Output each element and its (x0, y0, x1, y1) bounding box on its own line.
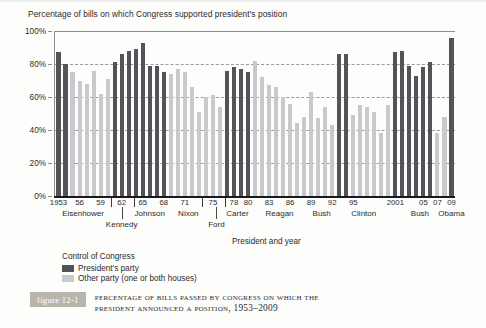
president-label-bush-1989: Bush (313, 209, 331, 218)
bar-2008 (442, 117, 446, 196)
y-tick-label-20: 20% (30, 159, 46, 168)
x-tick-label-1959: 59 (96, 198, 105, 207)
y-tick-60 (48, 97, 52, 98)
legend-swatch-other-party (62, 275, 74, 282)
x-tick-label-2009: 09 (447, 198, 456, 207)
bar-1973 (197, 112, 201, 196)
figure-number-badge: figure 12-1 (30, 292, 86, 307)
bar-1961 (113, 62, 117, 196)
bar-1998 (372, 112, 376, 196)
bar-1970 (176, 69, 180, 196)
bar-1966 (148, 66, 152, 196)
bar-1962 (120, 54, 124, 196)
tick-bracket-kennedy (111, 198, 135, 208)
bar-1974 (204, 97, 208, 196)
y-tick-label-60: 60% (30, 93, 46, 102)
bar-1988 (302, 117, 306, 196)
president-label-carter-1977: Carter (226, 209, 248, 218)
tick-bracket-ford (202, 198, 226, 208)
x-tick-label-1956: 56 (75, 198, 84, 207)
figure-page: Percentage of bills on which Congress su… (0, 0, 486, 328)
y-tick-100 (48, 31, 52, 32)
president-label-ford-1975: Ford (208, 220, 224, 229)
bar-1956 (78, 81, 82, 197)
bar-1979 (239, 69, 243, 196)
bar-1996 (358, 105, 362, 196)
bar-1967 (155, 66, 159, 196)
bar-1981 (253, 61, 257, 196)
president-label-obama-2009: Obama (438, 209, 464, 218)
bar-2006 (428, 62, 432, 196)
bar-1994 (344, 54, 348, 196)
bar-1987 (295, 123, 299, 196)
bar-1995 (351, 115, 355, 196)
president-label-kennedy-1961: Kennedy (106, 220, 138, 229)
y-axis: 0%20%40%60%80%100% (0, 31, 52, 196)
x-tick-label-1986: 86 (286, 198, 295, 207)
x-tick-label-1989: 89 (307, 198, 316, 207)
bar-1992 (330, 125, 334, 196)
bar-2004 (414, 76, 418, 196)
bar-1984 (274, 87, 278, 196)
bar-1969 (169, 74, 173, 196)
leader-line-ford (216, 207, 217, 219)
legend-label-presidents-party: President's party (78, 264, 139, 273)
bar-1997 (365, 107, 369, 196)
figure-caption-text: Percentage of Bills Passed by Congress o… (95, 292, 319, 315)
x-tick-label-2001: 2001 (387, 198, 404, 207)
bar-1968 (162, 72, 166, 196)
plot-area (55, 31, 455, 196)
chart-title: Percentage of bills on which Congress su… (28, 9, 287, 19)
bar-1991 (323, 107, 327, 196)
x-tick-label-1983: 83 (265, 198, 274, 207)
x-tick-label-1965: 65 (138, 198, 147, 207)
legend-title: Control of Congress (62, 252, 197, 261)
x-tick-label-2005: 05 (419, 198, 428, 207)
president-label-clinton-1993: Clinton (351, 209, 376, 218)
president-label-bush-2001: Bush (411, 209, 429, 218)
x-tick-label-1968: 68 (159, 198, 168, 207)
bar-1999 (379, 133, 383, 196)
y-tick-label-80: 80% (30, 60, 46, 69)
bar-1989 (309, 92, 313, 196)
bar-1982 (260, 77, 264, 196)
bar-1978 (232, 67, 236, 196)
bar-1986 (288, 104, 292, 196)
bar-1993 (337, 54, 341, 196)
bar-1971 (183, 72, 187, 196)
leader-line-kennedy (122, 207, 123, 219)
president-label-johnson-1964: Johnson (135, 209, 165, 218)
bar-1985 (281, 97, 285, 196)
bar-2005 (421, 67, 425, 196)
bar-1972 (190, 87, 194, 196)
bar-2002 (400, 51, 404, 196)
page-top-edge (0, 0, 486, 2)
president-label-reagan-1981: Reagan (266, 209, 294, 218)
figure-caption-line-1: Percentage of Bills Passed by Congress o… (95, 292, 319, 303)
legend-item-other: Other party (one or both houses) (62, 274, 197, 283)
x-tick-label-1992: 92 (328, 198, 337, 207)
bar-2000 (386, 105, 390, 196)
bar-1958 (92, 71, 96, 196)
y-tick-80 (48, 64, 52, 65)
bar-1977 (225, 71, 229, 196)
bar-1975 (211, 95, 215, 196)
bar-1990 (316, 118, 320, 196)
x-tick-label-1980: 80 (244, 198, 253, 207)
x-tick-label-1978: 78 (230, 198, 239, 207)
x-axis-title: President and year (232, 237, 301, 246)
bar-1953 (56, 52, 60, 196)
bar-1954 (63, 64, 67, 196)
president-label-eisenhower-1953: Eisenhower (62, 209, 104, 218)
x-tick-label-1995: 95 (349, 198, 358, 207)
y-tick-label-40: 40% (30, 126, 46, 135)
bar-1965 (141, 43, 145, 196)
bar-2007 (435, 133, 439, 196)
x-axis-labels: 1953565962656871757880838689929520010507… (0, 196, 486, 242)
x-tick-label-1971: 71 (180, 198, 189, 207)
legend-item-own: President's party (62, 264, 197, 273)
y-tick-20 (48, 163, 52, 164)
bar-2001 (393, 52, 397, 196)
president-label-nixon-1969: Nixon (178, 209, 198, 218)
bar-series (55, 31, 455, 196)
